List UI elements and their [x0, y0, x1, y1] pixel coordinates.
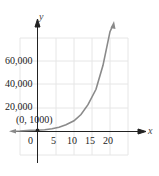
y-tick-60000: 60,000	[5, 56, 33, 66]
point-marker	[36, 129, 40, 133]
x-tick-5: 5	[51, 136, 56, 146]
x-tick-20: 20	[103, 136, 113, 146]
x-tick-0: 0	[28, 136, 33, 146]
curve-left-arrow-icon	[9, 129, 16, 134]
x-axis-label: x	[148, 126, 152, 136]
y-tick-40000: 40,000	[5, 79, 33, 89]
axes	[14, 19, 146, 163]
y-tick-20000: 20,000	[5, 102, 33, 112]
y-axis-label: y	[39, 12, 43, 22]
x-tick-10: 10	[67, 136, 77, 146]
x-tick-15: 15	[85, 136, 95, 146]
x-axis-arrow-icon	[138, 129, 146, 134]
curve-arrow-icon	[111, 21, 116, 29]
point-annotation: (0, 1000)	[16, 115, 53, 125]
